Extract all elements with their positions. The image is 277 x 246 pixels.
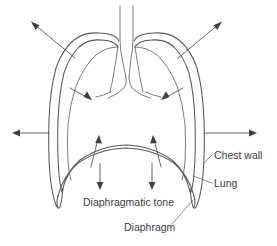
- diaphragm-tone-down-right-arrow: [149, 163, 156, 190]
- bronchi: [96, 78, 161, 98]
- diaphragmatic-tone-label-group: Diaphragmatic tone: [83, 196, 174, 208]
- diaphragm-label: Diaphragm: [124, 221, 176, 233]
- chest-wall-label-group: Chest wall: [204, 149, 262, 163]
- lung-label: Lung: [214, 177, 238, 189]
- chest-wall-recoil-upper-right-arrow: [178, 22, 222, 58]
- chest-wall-recoil-upper-left-arrow: [31, 22, 75, 58]
- diaphragmatic-tone-label: Diaphragmatic tone: [83, 196, 174, 208]
- lung-outline: [68, 47, 186, 180]
- diagram-canvas: Chest wall Lung Diaphragmatic tone Diaph…: [0, 0, 277, 246]
- chest-wall-outline: [49, 33, 205, 208]
- trachea: [120, 6, 133, 78]
- lung-chest-wall-diagram: Chest wall Lung Diaphragmatic tone Diaph…: [0, 0, 277, 246]
- chest-wall-recoil-right-arrow: [204, 130, 257, 137]
- chest-wall-label: Chest wall: [214, 149, 262, 161]
- chest-wall-recoil-left-arrow: [12, 130, 49, 137]
- diaphragm-tone-down-left-arrow: [97, 163, 104, 190]
- lung-label-group: Lung: [193, 176, 238, 189]
